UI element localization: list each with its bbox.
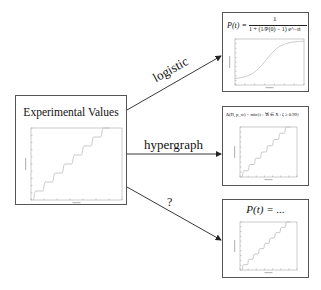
unknown-model-box: P(t) = ... (222, 199, 309, 278)
experimental-values-box: Experimental Values (15, 95, 127, 205)
logistic-formula-numerator: 1 (273, 15, 277, 23)
logistic-formula: P(t) = 1 1 + (1/P(0) − 1) e^−rt (227, 15, 307, 37)
arrow-label-unknown: ? (167, 195, 172, 210)
plot-curve (235, 41, 304, 78)
logistic-formula-lhs: P(t) = (227, 21, 247, 30)
x-axis-label (73, 202, 81, 203)
y-axis-label (234, 146, 235, 158)
hypergraph-plot (233, 125, 299, 183)
logistic-plot (228, 37, 306, 91)
unknown-plot (233, 220, 299, 276)
plot-frame (235, 39, 304, 85)
logistic-formula-denominator: 1 + (1/P(0) − 1) e^−rt (249, 26, 301, 32)
hypergraph-formula: Δ(Π, p_w) = min{t : ∀i ∈ X : ζ ≥ 0.99} (226, 112, 299, 117)
experimental-values-title: Experimental Values (16, 106, 126, 118)
y-axis-label (229, 56, 230, 68)
y-axis-label (234, 240, 235, 252)
x-axis-label (265, 272, 273, 273)
unknown-formula: P(t) = ... (223, 203, 308, 215)
plot-frame (31, 128, 122, 200)
plot-curve (242, 222, 290, 270)
hypergraph-model-box: Δ(Π, p_w) = min{t : ∀i ∈ X : ζ ≥ 0.99} (222, 106, 309, 186)
x-axis-label (266, 87, 274, 88)
x-axis-label (265, 179, 273, 180)
experimental-plot (24, 126, 124, 206)
arrow-label-hypergraph: hypergraph (144, 137, 203, 153)
logistic-model-box: P(t) = 1 1 + (1/P(0) − 1) e^−rt (222, 12, 309, 92)
plot-curve (242, 127, 290, 177)
y-axis-label (25, 158, 26, 170)
plot-curve (33, 128, 110, 200)
arrow-unknown (127, 187, 221, 240)
plot-frame (240, 222, 297, 270)
